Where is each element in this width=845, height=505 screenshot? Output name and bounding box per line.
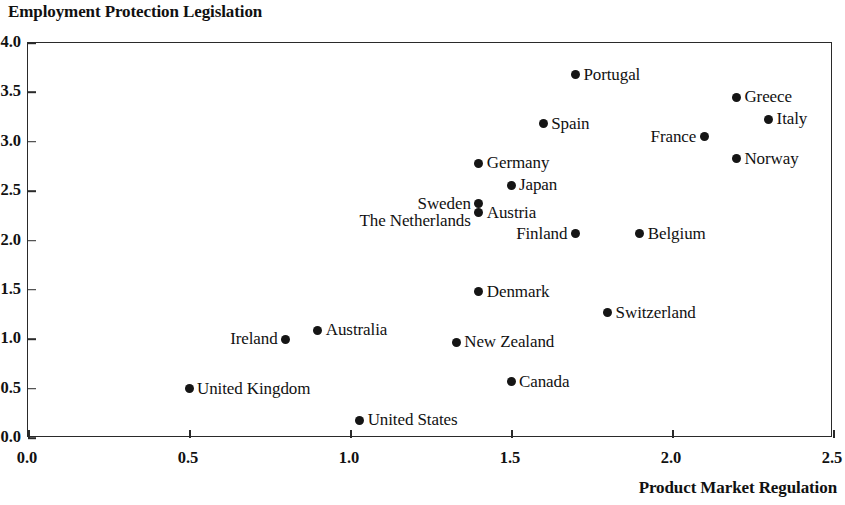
y-axis-tick-mark <box>28 338 36 340</box>
data-point-marker <box>185 384 194 393</box>
y-axis-tick-mark <box>28 190 36 192</box>
page-title: Employment Protection Legislation <box>8 2 262 22</box>
x-axis-tick-label: 0.0 <box>17 448 38 468</box>
data-point-label: Switzerland <box>616 303 696 323</box>
data-point-marker <box>474 287 483 296</box>
data-point-label: Austria <box>487 203 536 223</box>
x-axis-tick-label: 2.0 <box>661 448 682 468</box>
y-axis-tick-label: 3.0 <box>0 131 21 151</box>
x-axis-tick-label: 1.0 <box>339 448 360 468</box>
data-point-marker <box>571 70 580 79</box>
data-point-label: Finland <box>516 224 567 244</box>
y-axis-tick-mark <box>28 42 36 44</box>
scatter-chart-figure: Employment Protection Legislation Portug… <box>0 0 845 505</box>
y-axis-tick-mark <box>28 388 36 390</box>
data-point-marker <box>313 326 322 335</box>
y-axis-tick-label: 0.5 <box>0 378 21 398</box>
data-point-label: Canada <box>519 372 569 392</box>
y-axis-tick-label: 2.0 <box>0 230 21 250</box>
y-axis-tick-label: 4.0 <box>0 32 21 52</box>
x-axis-tick-label: 1.5 <box>500 448 521 468</box>
data-point-marker <box>355 416 364 425</box>
data-point-marker <box>732 154 741 163</box>
x-axis-title: Product Market Regulation <box>639 478 837 498</box>
y-axis-tick-mark <box>28 240 36 242</box>
data-point-marker <box>700 132 709 141</box>
data-point-marker <box>764 115 773 124</box>
y-axis-tick-label: 0.0 <box>0 427 21 447</box>
data-point-marker <box>571 229 580 238</box>
x-axis-tick-label: 0.5 <box>178 448 199 468</box>
data-point-label: Norway <box>744 149 798 169</box>
data-point-label: Portugal <box>583 65 640 85</box>
data-point-marker <box>635 229 644 238</box>
x-axis-tick-mark <box>189 430 191 438</box>
y-axis-tick-mark <box>28 141 36 143</box>
x-axis-tick-mark <box>511 430 513 438</box>
x-axis-tick-mark <box>833 430 835 438</box>
data-point-marker <box>732 93 741 102</box>
data-point-marker <box>474 199 483 208</box>
data-point-marker <box>452 338 461 347</box>
y-axis-tick-label: 1.0 <box>0 328 21 348</box>
x-axis-tick-mark <box>350 430 352 438</box>
data-point-label: United Kingdom <box>197 379 310 399</box>
data-point-label: United States <box>368 410 458 430</box>
y-axis-tick-label: 1.5 <box>0 279 21 299</box>
data-point-label: Germany <box>487 153 550 173</box>
x-axis-tick-mark <box>28 430 30 438</box>
data-point-label: Italy <box>777 109 808 129</box>
data-point-label: The Netherlands <box>359 211 470 231</box>
data-point-label: Greece <box>744 87 792 107</box>
y-axis-tick-label: 3.5 <box>0 81 21 101</box>
data-point-marker <box>539 119 548 128</box>
data-point-label: Japan <box>519 175 557 195</box>
data-point-label: France <box>651 127 697 147</box>
data-point-marker <box>603 308 612 317</box>
data-point-label: Australia <box>326 320 387 340</box>
y-axis-tick-mark <box>28 92 36 94</box>
data-point-marker <box>507 181 516 190</box>
y-axis-tick-mark <box>28 289 36 291</box>
x-axis-tick-label: 2.5 <box>822 448 843 468</box>
y-axis-tick-label: 2.5 <box>0 180 21 200</box>
plot-area: PortugalGreeceItalySpainFranceNorwayGerm… <box>27 42 832 437</box>
data-point-label: Spain <box>551 114 589 134</box>
data-point-label: New Zealand <box>464 332 554 352</box>
data-point-marker <box>474 159 483 168</box>
data-point-marker <box>507 377 516 386</box>
data-point-marker <box>474 208 483 217</box>
x-axis-tick-mark <box>672 430 674 438</box>
data-point-label: Denmark <box>487 282 550 302</box>
data-point-marker <box>281 335 290 344</box>
data-point-label: Ireland <box>230 329 277 349</box>
data-point-label: Belgium <box>648 224 706 244</box>
